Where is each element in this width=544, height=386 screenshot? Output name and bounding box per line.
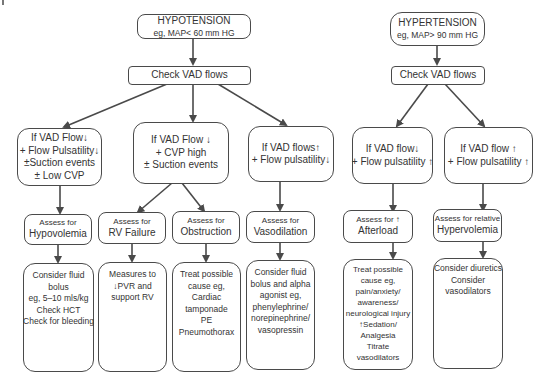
condition-low-flow-low-pulsatility: If VAD Flow↓ + Flow Pulsatility↓ ±Suctio… (17, 128, 102, 186)
action-hypovolemia: Consider fluid bolus eg, 5–10 mls/kg Che… (23, 263, 94, 372)
assess-hypervolemia: Assess for relative Hypervolemia (433, 209, 502, 242)
assess-vasodilation: Assess for Vasodilation (246, 211, 315, 243)
action-rv-failure: Measures to ↓PVR and support RV (98, 262, 167, 372)
assess-obstruction: Assess for Obstruction (172, 211, 240, 244)
hypertension-subtitle: eg, MAP> 90 mm HG (397, 30, 478, 42)
hypertension-check-vad-flows: Check VAD flows (391, 66, 485, 85)
hypotension-title: HYPOTENSION (158, 15, 231, 28)
condition-low-flow-high-pulsatility: If VAD flow↓ + Flow pulsatility ↑ (352, 127, 433, 184)
hypertension-title: HYPERTENSION (398, 17, 477, 30)
action-vasodilation: Consider fluid bolus and alpha agonist e… (246, 260, 315, 370)
condition-low-flow-high-cvp: If VAD Flow ↓ + CVP high ± Suction event… (133, 122, 229, 184)
hypotension-check-vad-flows: Check VAD flows (128, 66, 251, 85)
hypotension-subtitle: eg, MAP< 60 mm HG (153, 28, 234, 38)
condition-high-flow-low-pulsatility: If VAD flows↑ + Flow pulsatility↓ (248, 126, 334, 182)
action-hypervolemia: Consider diuretics Consider vasodilators (433, 258, 503, 369)
hypotension-box: HYPOTENSION eg, MAP< 60 mm HG (137, 14, 251, 39)
condition-high-flow-high-pulsatility: If VAD flow ↑ + Flow pulsatility ↑ (444, 127, 533, 184)
action-obstruction: Treat possible cause eg, Cardiac tampona… (172, 262, 241, 372)
assess-afterload: Assess for ↑ Afterload (343, 210, 413, 243)
assess-hypovolemia: Assess for Hypovolemia (24, 214, 92, 245)
assess-rv-failure: Assess for RV Failure (98, 212, 166, 244)
hypertension-box: HYPERTENSION eg, MAP> 90 mm HG (390, 12, 485, 46)
action-afterload: Treat possible cause eg, pain/anxiety/ a… (343, 259, 413, 370)
